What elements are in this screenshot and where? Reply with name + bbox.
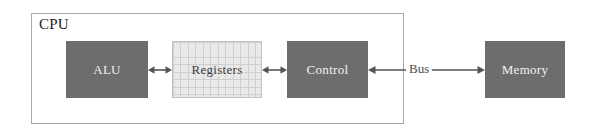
block-memory-label: Memory <box>502 62 549 78</box>
double-arrow-icon <box>148 59 172 81</box>
cpu-enclosure-label: CPU <box>39 17 69 32</box>
double-arrow-icon <box>262 59 287 81</box>
block-control: Control <box>287 41 368 98</box>
block-registers-label: Registers <box>191 62 242 78</box>
connector-alu-registers <box>148 59 172 81</box>
connector-bus-label: Bus <box>406 61 432 77</box>
block-control-label: Control <box>307 62 349 78</box>
block-alu-label: ALU <box>93 62 121 78</box>
block-memory: Memory <box>485 41 565 98</box>
block-alu: ALU <box>66 41 148 98</box>
block-registers: Registers <box>172 41 262 98</box>
connector-registers-control <box>262 59 287 81</box>
cpu-memory-diagram: CPU ALU Registers Control Bus <box>0 0 595 140</box>
